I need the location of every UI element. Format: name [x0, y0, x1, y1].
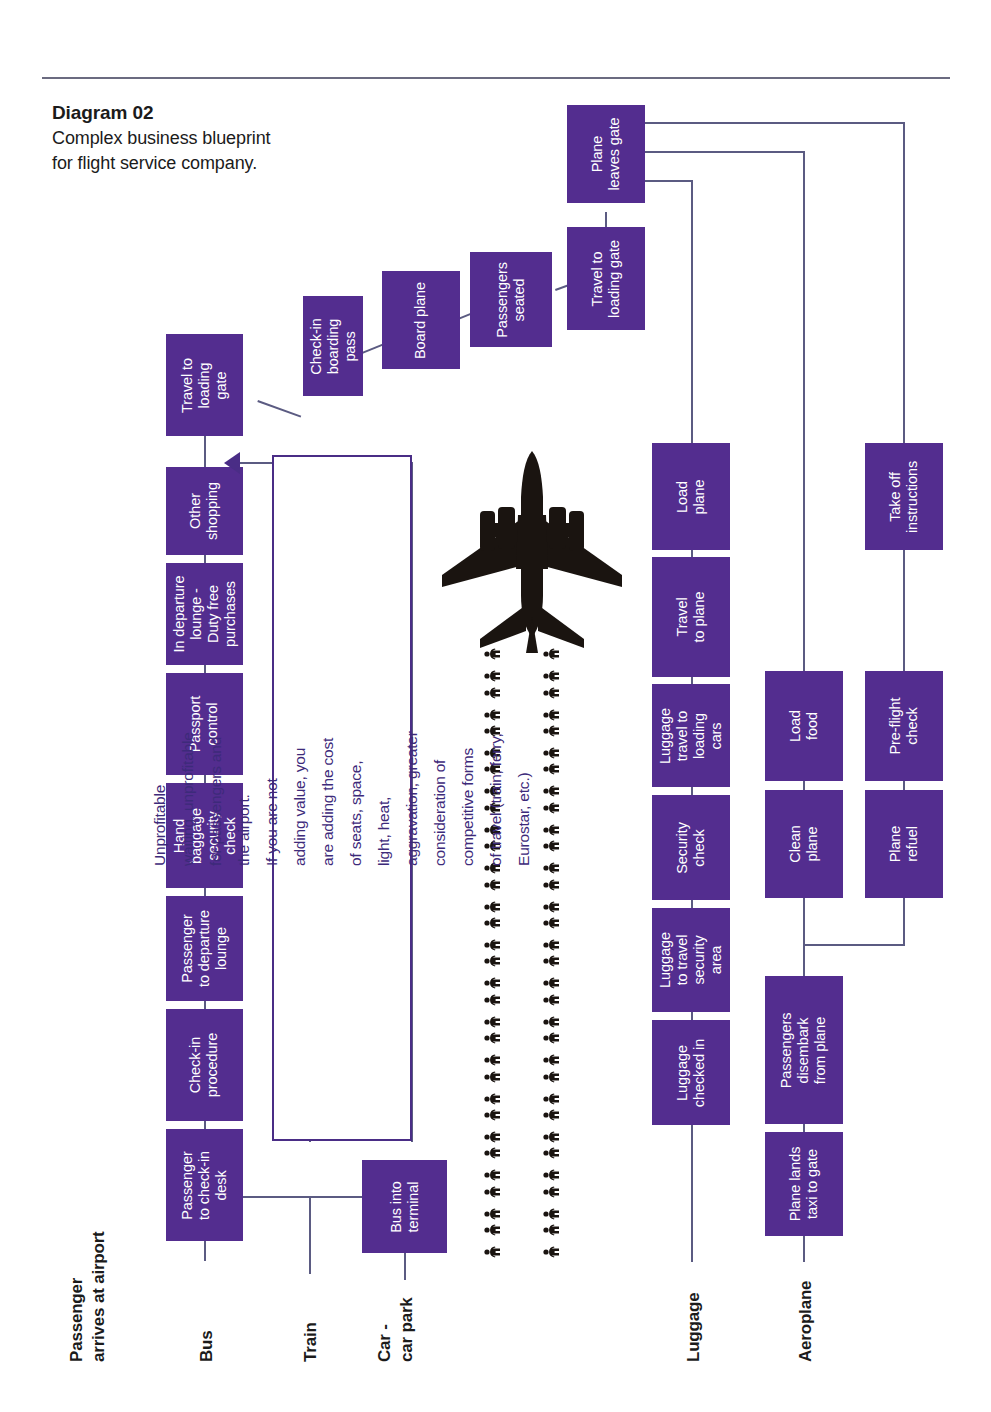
person-pair — [462, 917, 521, 955]
node-label: Load plane — [674, 479, 708, 514]
connector-planeleaves-branch-loadplane-h — [645, 180, 693, 182]
node-label: Passengers disembark from plane — [778, 1012, 829, 1088]
connector-car-stub — [404, 1252, 406, 1280]
node-check-in-boarding-pass[interactable]: Check-in boarding pass — [303, 296, 363, 396]
node-plane-lands-taxi-to-gate[interactable]: Plane lands taxi to gate — [765, 1132, 843, 1236]
node-in-departure-lounge-duty-free[interactable]: In departure lounge - Duty free purchase… — [166, 563, 243, 665]
person-silhouette-icon — [484, 877, 500, 897]
person-silhouette-icon — [484, 1145, 500, 1165]
connector-refuel-to-aeroplane-h — [803, 944, 905, 946]
person-pair — [462, 1032, 521, 1070]
person-pair — [462, 955, 521, 993]
person-pair — [462, 1185, 521, 1223]
node-passengers-seated[interactable]: Passengers seated — [470, 252, 552, 347]
node-label: Travel to plane — [674, 592, 708, 643]
person-pair — [462, 994, 521, 1032]
node-load-food[interactable]: Load food — [765, 671, 843, 781]
person-pair — [521, 1109, 580, 1147]
person-silhouette-icon — [543, 838, 559, 858]
node-label: Bus into terminal — [388, 1181, 422, 1233]
node-label: Plane leaves gate — [589, 117, 623, 190]
person-pair — [521, 686, 580, 724]
node-label: Passengers seated — [494, 262, 528, 338]
person-silhouette-icon — [484, 1069, 500, 1089]
person-pair — [521, 1185, 580, 1223]
person-pair — [462, 1224, 521, 1262]
person-pair — [521, 1147, 580, 1185]
person-pair — [521, 648, 580, 686]
node-plane-refuel[interactable]: Plane refuel — [865, 790, 943, 898]
node-plane-leaves-gate[interactable]: Plane leaves gate — [567, 105, 645, 203]
person-silhouette-icon — [543, 877, 559, 897]
person-silhouette-icon — [484, 1184, 500, 1204]
caption-title: Diagram 02 — [52, 100, 282, 126]
person-pair — [521, 917, 580, 955]
diagram-page: Diagram 02 Complex business blueprint fo… — [0, 0, 991, 1412]
node-label: Other shopping — [188, 482, 222, 540]
node-label: Travel to loading gate — [589, 240, 623, 318]
node-pre-flight-check[interactable]: Pre-flight check — [865, 671, 943, 781]
node-security-check[interactable]: Security check — [652, 795, 730, 900]
connector-planeleaves-branch-takeoff-h — [645, 122, 905, 124]
connector-train-stub — [309, 1196, 311, 1274]
person-pair — [462, 1109, 521, 1147]
node-passengers-disembark-from-plane[interactable]: Passengers disembark from plane — [765, 976, 843, 1124]
person-silhouette-icon — [543, 800, 559, 820]
airplane-top-view-silhouette-icon — [432, 445, 632, 665]
node-check-in-procedure[interactable]: Check-in procedure — [166, 1009, 243, 1121]
person-pair — [462, 1147, 521, 1185]
node-label: Luggage checked in — [674, 1038, 708, 1106]
node-label: Check-in procedure — [188, 1033, 222, 1097]
node-board-plane[interactable]: Board plane — [382, 271, 460, 369]
person-silhouette-icon — [484, 1030, 500, 1050]
node-label: Travel to loading gate — [179, 347, 230, 424]
person-silhouette-icon — [543, 915, 559, 935]
node-label: Board plane — [412, 281, 429, 358]
person-silhouette-icon — [543, 723, 559, 743]
person-silhouette-icon — [484, 646, 500, 666]
connector-planeleaves-branch-food-v — [803, 151, 805, 703]
node-bus-into-terminal[interactable]: Bus into terminal — [362, 1160, 447, 1253]
node-other-shopping[interactable]: Other shopping — [166, 467, 243, 555]
node-take-off-instructions[interactable]: Take off instructions — [865, 443, 943, 550]
node-passenger-to-check-in-desk[interactable]: Passenger to check-in desk — [166, 1129, 243, 1241]
person-pair — [521, 994, 580, 1032]
node-label: Clean plane — [787, 825, 821, 862]
caption-block: Diagram 02 Complex business blueprint fo… — [52, 100, 282, 176]
node-travel-to-plane[interactable]: Travel to plane — [652, 557, 730, 677]
node-load-plane[interactable]: Load plane — [652, 443, 730, 550]
node-passenger-to-departure-lounge[interactable]: Passenger to departure lounge — [166, 896, 243, 1001]
node-clean-plane[interactable]: Clean plane — [765, 790, 843, 898]
node-label: Passenger to check-in desk — [179, 1150, 230, 1219]
person-silhouette-icon — [543, 1244, 559, 1264]
person-silhouette-icon — [543, 1145, 559, 1165]
node-luggage-to-travel-security-area[interactable]: Luggage to travel security area — [652, 908, 730, 1012]
lane-label-passenger-arrives: Passenger arrives at airport — [66, 1231, 110, 1362]
node-label: Passenger to departure lounge — [179, 910, 230, 987]
person-silhouette-icon — [484, 1107, 500, 1127]
node-luggage-checked-in[interactable]: Luggage checked in — [652, 1020, 730, 1125]
lane-label-bus: Bus — [196, 1330, 218, 1362]
person-silhouette-icon — [484, 915, 500, 935]
person-pair — [521, 955, 580, 993]
lane-label-luggage: Luggage — [683, 1293, 705, 1362]
node-label: Plane lands taxi to gate — [787, 1147, 821, 1222]
person-silhouette-icon — [543, 1107, 559, 1127]
person-pair — [462, 648, 521, 686]
node-travel-to-loading-gate-2[interactable]: Travel to loading gate — [567, 227, 645, 330]
lane-label-train: Train — [300, 1322, 322, 1362]
person-silhouette-icon — [543, 646, 559, 666]
lane-label-aeroplane: Aeroplane — [795, 1281, 817, 1362]
node-label: Pre-flight check — [887, 697, 921, 754]
person-silhouette-icon — [543, 685, 559, 705]
node-luggage-travel-to-loading-cars[interactable]: Luggage travel to loading cars — [652, 684, 730, 787]
caption-body: Complex business blueprint for flight se… — [52, 126, 282, 176]
person-silhouette-icon — [543, 761, 559, 781]
arrow-to-loading-gate-icon — [224, 452, 240, 474]
node-travel-to-loading-gate-1[interactable]: Travel to loading gate — [166, 334, 243, 436]
node-label: Luggage to travel security area — [657, 932, 725, 988]
person-silhouette-icon — [484, 1222, 500, 1242]
person-silhouette-icon — [543, 992, 559, 1012]
connector-planeleaves-branch-loadplane-v — [691, 180, 693, 444]
person-silhouette-icon — [484, 1244, 500, 1264]
